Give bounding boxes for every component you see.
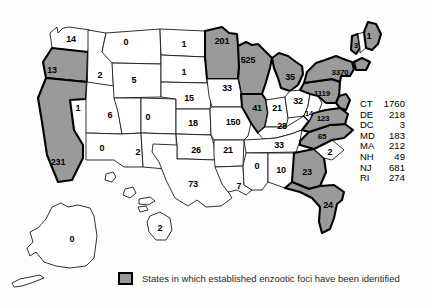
map-label-TN: 33 xyxy=(274,140,284,150)
map-label-AR: 21 xyxy=(223,145,233,155)
map-label-HI: 2 xyxy=(158,223,163,233)
map-label-MS: 0 xyxy=(255,161,260,171)
map-label-AZ: 0 xyxy=(100,143,105,153)
map-label-OH: 32 xyxy=(293,96,303,106)
map-label-ME: 1 xyxy=(367,31,372,41)
map-label-UT: 6 xyxy=(108,110,113,120)
map-label-WY: 5 xyxy=(132,75,137,85)
map-label-MN: 201 xyxy=(215,36,229,46)
small-state-abbreviation-list: CT 1760 DE 218 DC 3 MD 183 MA 212 NH 49 xyxy=(360,99,405,184)
abbr-count: 1760 xyxy=(384,99,405,110)
map-label-NM: 2 xyxy=(136,147,141,157)
state-shape-WI xyxy=(238,42,272,94)
map-label-MI: 35 xyxy=(285,72,295,82)
abbr-label: NH xyxy=(360,152,384,163)
legend-label: States in which established enzootic foc… xyxy=(142,273,400,284)
map-label-MT: 0 xyxy=(124,37,129,47)
state-shape-AZ xyxy=(86,133,143,167)
map-label-MO: 150 xyxy=(226,117,240,127)
map-label-NC: 65 xyxy=(318,132,327,141)
state-shape-HI-oahu xyxy=(123,187,136,198)
map-label-TX: 73 xyxy=(188,179,198,189)
map-label-SC: 2 xyxy=(328,147,333,157)
state-shape-HI-molokai xyxy=(138,206,148,212)
abbr-row: CT 1760 xyxy=(360,99,405,110)
map-label-LA: 7 xyxy=(237,181,242,191)
map-label-FL: 24 xyxy=(323,200,333,210)
map-label-ND: 1 xyxy=(182,39,187,49)
map-label-WV: 14 xyxy=(305,109,313,118)
legend: States in which established enzootic foc… xyxy=(118,272,400,285)
map-label-ID: 2 xyxy=(98,70,103,80)
map-label-AK: 0 xyxy=(70,234,75,244)
state-shape-HI-maui xyxy=(139,197,155,205)
state-shape-MN xyxy=(205,27,242,79)
map-label-OK: 26 xyxy=(191,145,201,155)
map-label-KS: 18 xyxy=(188,118,198,128)
state-shape-AK-aleutians xyxy=(12,275,44,287)
map-label-AL: 10 xyxy=(276,165,286,175)
map-label-KY: 28 xyxy=(277,121,287,131)
map-label-IA: 33 xyxy=(222,83,232,93)
map-label-WA: 14 xyxy=(66,34,76,44)
legend-swatch-shaded xyxy=(118,272,133,285)
state-shape-AK xyxy=(27,203,97,268)
map-label-IN: 21 xyxy=(272,103,282,113)
map-label-NV: 1 xyxy=(76,103,81,113)
map-label-GA: 23 xyxy=(302,167,312,177)
map-figure: 14 13 231 2 1 0 5 6 0 0 2 1 1 15 18 26 7… xyxy=(0,0,433,308)
abbr-count: 49 xyxy=(384,152,405,163)
map-label-NE: 15 xyxy=(184,93,194,103)
state-shape-MT xyxy=(102,29,161,64)
state-shape-HI-kauai xyxy=(105,172,116,182)
abbr-label: CT xyxy=(360,99,384,110)
map-label-WI: 525 xyxy=(241,55,255,65)
map-label-CO: 0 xyxy=(146,112,151,122)
map-label-OR: 13 xyxy=(47,65,57,75)
abbr-count: 274 xyxy=(384,173,405,184)
abbr-label: RI xyxy=(360,173,384,184)
map-label-PA: 1119 xyxy=(314,89,330,98)
map-label-SD: 1 xyxy=(182,67,187,77)
map-label-VT: 3 xyxy=(354,41,358,50)
map-label-NY: 3370 xyxy=(332,68,349,77)
state-shape-MS xyxy=(243,153,268,190)
state-shape-NE-coast xyxy=(354,58,370,70)
state-shape-FL xyxy=(285,182,344,233)
map-label-CA: 231 xyxy=(51,157,65,167)
abbr-row: RI 274 xyxy=(360,173,405,184)
map-label-IL: 41 xyxy=(252,103,262,113)
map-label-VA: 123 xyxy=(317,114,330,123)
abbr-row: NH 49 xyxy=(360,152,405,163)
